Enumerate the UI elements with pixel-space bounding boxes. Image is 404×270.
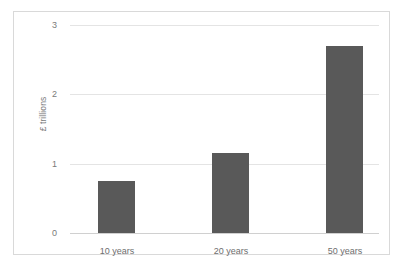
- bars-layer: [60, 12, 389, 254]
- bar: [98, 181, 135, 233]
- y-tick-label: 1: [31, 159, 57, 168]
- plot-area: 0123 10 years20 years50 years: [60, 12, 389, 254]
- y-tick-label: 3: [31, 21, 57, 30]
- chart-plot-frame: £ trillions 0123 10 years20 years50 year…: [13, 11, 390, 255]
- bar: [326, 46, 363, 233]
- y-tick-label: 2: [31, 90, 57, 99]
- bar: [212, 153, 249, 233]
- x-axis-label: 50 years: [288, 246, 402, 256]
- bar-group: [288, 12, 402, 233]
- x-axis-label: 20 years: [174, 246, 288, 256]
- x-axis-label: 10 years: [60, 246, 174, 256]
- bar-group: [174, 12, 288, 233]
- x-axis-baseline: [70, 233, 379, 234]
- bar-group: [60, 12, 174, 233]
- bar-chart: £ trillions 0123 10 years20 years50 year…: [0, 0, 404, 270]
- y-tick-label: 0: [31, 229, 57, 238]
